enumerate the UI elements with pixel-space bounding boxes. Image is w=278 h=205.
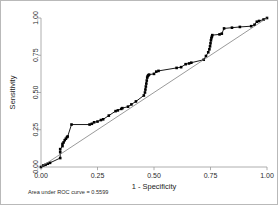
roc-data-point [145, 82, 148, 85]
y-tick-label: 1.00 [32, 11, 39, 25]
roc-data-point [208, 48, 211, 51]
roc-data-point [209, 42, 212, 45]
roc-data-point [61, 145, 64, 148]
x-tick-label: 0.75 [204, 172, 218, 179]
roc-data-point [218, 33, 221, 36]
y-tick-label: 0.75 [32, 48, 39, 62]
roc-data-point [93, 121, 96, 124]
roc-plot: 0.000.250.500.751.000.000.250.500.751.00… [1, 1, 278, 205]
roc-data-point [190, 61, 193, 64]
roc-data-point [144, 88, 147, 91]
x-tick-label: 1.00 [260, 172, 274, 179]
roc-data-point [145, 79, 148, 82]
roc-data-point [250, 25, 253, 28]
roc-data-point [205, 55, 208, 58]
roc-data-point [221, 32, 224, 35]
y-tick-label: 0.50 [32, 86, 39, 100]
roc-data-point [102, 118, 105, 121]
roc-data-point [184, 63, 187, 66]
roc-data-point [188, 62, 191, 65]
roc-data-point [258, 20, 261, 23]
roc-data-point [211, 34, 214, 37]
roc-data-point [175, 67, 178, 70]
y-axis-title: Sensitivity [8, 75, 17, 109]
roc-data-point [59, 148, 62, 151]
roc-data-point [91, 122, 94, 125]
roc-data-point [62, 141, 65, 144]
roc-data-point [145, 85, 148, 88]
x-axis-title: 1 - Specificity [132, 182, 177, 191]
roc-data-point [135, 100, 138, 103]
roc-data-point [239, 26, 242, 29]
roc-data-point [70, 123, 73, 126]
roc-data-point [66, 135, 69, 138]
roc-data-point [231, 26, 234, 29]
roc-data-point [207, 51, 210, 54]
roc-data-point [209, 45, 212, 48]
roc-data-point [96, 120, 99, 123]
roc-data-point [223, 27, 226, 30]
auc-note: Area under ROC curve = 0.5599 [28, 189, 108, 195]
roc-data-point [155, 70, 158, 73]
roc-data-point [114, 110, 117, 113]
roc-data-point [153, 73, 156, 76]
roc-data-point [148, 73, 151, 76]
roc-data-point [117, 109, 120, 112]
roc-data-point [210, 39, 213, 42]
roc-data-point [130, 103, 133, 106]
x-tick-label: 0.25 [91, 172, 105, 179]
reference-diagonal-line [41, 18, 267, 167]
roc-curve-figure: 0.000.250.500.751.000.000.250.500.751.00… [0, 0, 278, 205]
roc-data-point [59, 151, 62, 154]
roc-data-point [100, 119, 103, 122]
x-tick-label: 0.50 [147, 172, 161, 179]
roc-data-point [256, 20, 259, 23]
roc-data-point [59, 157, 62, 160]
roc-data-point [144, 91, 147, 94]
roc-data-point [180, 66, 183, 69]
roc-data-point [88, 123, 91, 126]
roc-data-point [127, 105, 130, 108]
roc-data-point [108, 114, 111, 117]
y-tick-label: 0.25 [32, 123, 39, 137]
roc-data-point [143, 94, 146, 97]
roc-data-point [157, 70, 160, 73]
roc-data-point [121, 107, 124, 110]
y-tick-label: 0.00 [32, 160, 39, 174]
